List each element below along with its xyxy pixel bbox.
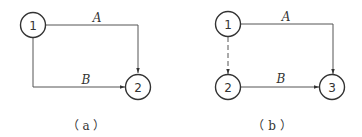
- node-a-1-label: 1: [29, 19, 37, 33]
- node-b-2: 2: [216, 75, 241, 100]
- edge-b-A: A: [241, 10, 333, 74]
- node-b-3-label: 3: [328, 81, 336, 95]
- edge-b-A-label: A: [281, 10, 291, 24]
- edge-a-A: A: [46, 11, 138, 73]
- node-a-2: 2: [126, 75, 151, 100]
- diagram-a: A B 1 2 （ a ）: [21, 11, 151, 133]
- node-b-1: 1: [216, 12, 241, 37]
- edge-a-A-label: A: [92, 11, 102, 25]
- edge-b-B: B: [241, 72, 319, 87]
- node-a-2-label: 2: [134, 81, 142, 95]
- node-b-3: 3: [320, 75, 345, 100]
- edge-a-B-label: B: [81, 73, 91, 87]
- node-a-1: 1: [21, 13, 46, 38]
- node-b-2-label: 2: [224, 81, 232, 95]
- node-b-1-label: 1: [224, 18, 232, 32]
- edge-a-B-arrow: [33, 38, 125, 87]
- network-diagram-canvas: A B 1 2 （ a ） A B: [0, 0, 362, 137]
- caption-b: （ b ）: [252, 119, 291, 133]
- edge-a-B: B: [33, 38, 125, 87]
- caption-a: （ a ）: [67, 119, 106, 133]
- diagram-b: A B 1 2 3 （ b ）: [216, 10, 345, 133]
- edge-a-A-arrow: [46, 25, 138, 73]
- edge-b-B-label: B: [276, 72, 286, 86]
- edge-b-A-arrow: [241, 24, 333, 74]
